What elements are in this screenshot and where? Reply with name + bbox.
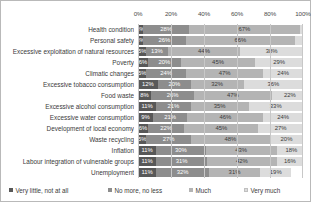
bar-segment: 31%: [156, 157, 207, 166]
bar-segment: 45%: [181, 58, 255, 67]
legend-item[interactable]: Very much: [244, 184, 280, 196]
category-label: Food waste: [1, 91, 134, 100]
legend-swatch-icon: [189, 188, 193, 192]
bar-segment: 47%: [194, 91, 272, 100]
category-label: Excessive water consumption: [1, 113, 134, 122]
category-label: Health condition: [1, 25, 134, 34]
bar-segment: 5%: [138, 47, 146, 56]
category-axis-labels: Health conditionPersonal safetyExcessive…: [1, 24, 134, 178]
bar-segment: 16%: [277, 157, 303, 166]
bar-row: 8%26%47%22%: [138, 91, 303, 100]
bar-row: 9%21%46%24%: [138, 113, 303, 122]
bar-segment: 22%: [148, 124, 184, 133]
legend-swatch-icon: [9, 188, 13, 192]
bar-segment: 11%: [138, 102, 156, 111]
bar-segment: 5%: [138, 135, 146, 144]
bar-row: 11%21%35%33%: [138, 102, 303, 111]
legend-label: Much: [196, 187, 211, 194]
bar-segment: 24%: [263, 69, 303, 78]
bar-segment: 11%: [138, 168, 156, 177]
bar-row: 12%20%32%36%: [138, 80, 303, 89]
category-label: Personal safety: [1, 36, 134, 45]
bar-row: 6%20%45%29%: [138, 58, 303, 67]
bar-segment: 35%: [191, 102, 249, 111]
bar-segment: 67%: [189, 25, 300, 34]
bar-rows: 3%28%67%3%26%66%5%13%44%38%6%20%45%29%5%…: [138, 24, 303, 178]
stacked-bar-chart-figure: 0%20%40%60%80%100% Health conditionPerso…: [0, 0, 311, 202]
x-axis-tick-labels: 0%20%40%60%80%100%: [138, 10, 303, 21]
bar-segment: 6%: [138, 124, 148, 133]
bar-segment: 48%: [191, 135, 270, 144]
category-label: Excessive tobacco consumption: [1, 80, 134, 89]
category-label: Labour integration of vulnerable groups: [1, 157, 134, 166]
bar-segment: 66%: [186, 36, 295, 45]
legend-swatch-icon: [108, 188, 112, 192]
bar-segment: 27%: [146, 135, 191, 144]
bar-segment: 33%: [249, 102, 303, 111]
category-label: Excessive exploitation of natural resour…: [1, 47, 134, 56]
bar-segment: 32%: [156, 168, 209, 177]
bar-segment: 36%: [244, 80, 303, 89]
bar-segment: 13%: [146, 47, 167, 56]
bar-segment: 18%: [277, 146, 303, 155]
legend-swatch-icon: [244, 188, 248, 192]
bar-segment: 11%: [138, 146, 156, 155]
bar-segment: 21%: [156, 102, 191, 111]
bar-segment: 45%: [184, 124, 258, 133]
bar-row: 6%22%45%27%: [138, 124, 303, 133]
x-axis-tick-60: 60%: [231, 10, 243, 17]
category-label: Climatic changes: [1, 69, 134, 78]
bar-segment: 21%: [153, 113, 188, 122]
bar-segment: 44%: [168, 47, 241, 56]
bar-row: 5%13%44%38%: [138, 47, 303, 56]
bar-segment: 30%: [156, 146, 206, 155]
bar-segment: [300, 25, 303, 34]
category-label: Waste recycling: [1, 135, 134, 144]
x-axis-tick-100: 100%: [295, 10, 310, 17]
bar-segment: 6%: [138, 58, 148, 67]
bar-segment: 24%: [263, 113, 303, 122]
bar-segment: [295, 36, 303, 45]
bar-segment: 38%: [240, 47, 303, 56]
bar-segment: 28%: [143, 25, 189, 34]
bar-segment: 26%: [143, 36, 186, 45]
legend-item[interactable]: No more, no less: [108, 184, 162, 196]
legend-label: Very little, not at all: [16, 187, 69, 194]
bar-segment: 22%: [272, 91, 303, 100]
bar-row: 3%26%66%: [138, 36, 303, 45]
category-label: Excessive alcohol consumption: [1, 102, 134, 111]
bar-segment: 20%: [270, 135, 303, 144]
legend-label: Very much: [251, 187, 281, 194]
bar-segment: 12%: [138, 80, 158, 89]
bar-row: 11%32%31%19%: [138, 168, 303, 177]
bar-segment: 46%: [187, 113, 263, 122]
category-label: Unemployment: [1, 168, 134, 177]
x-axis-tick-40: 40%: [198, 10, 210, 17]
bar-segment: 47%: [186, 69, 264, 78]
bar-segment: 5%: [138, 69, 146, 78]
category-label: Development of local economy: [1, 124, 134, 133]
legend-item[interactable]: Very little, not at all: [9, 184, 68, 196]
legend-item[interactable]: Much: [189, 184, 211, 196]
bar-row: 11%31%42%16%: [138, 157, 303, 166]
x-axis-tick-0: 0%: [134, 10, 143, 17]
bar-segment: 29%: [255, 58, 303, 67]
bar-segment: 19%: [260, 168, 291, 177]
bar-segment: 43%: [206, 146, 277, 155]
bar-segment: 26%: [151, 91, 194, 100]
bar-segment: 27%: [258, 124, 303, 133]
category-label: Poverty: [1, 58, 134, 67]
bar-segment: 20%: [158, 80, 191, 89]
bar-segment: 20%: [148, 58, 181, 67]
bar-segment: 32%: [191, 80, 244, 89]
bar-row: 5%24%47%24%: [138, 69, 303, 78]
bar-row: 11%30%43%18%: [138, 146, 303, 155]
chart-legend: Very little, not at allNo more, no lessM…: [1, 184, 310, 196]
legend-label: No more, no less: [115, 187, 163, 194]
bar-segment: 42%: [207, 157, 276, 166]
bar-segment: 24%: [146, 69, 186, 78]
bar-segment: 8%: [138, 91, 151, 100]
bar-segment: 31%: [209, 168, 260, 177]
bar-segment: 11%: [138, 157, 156, 166]
bar-row: 5%27%48%20%: [138, 135, 303, 144]
